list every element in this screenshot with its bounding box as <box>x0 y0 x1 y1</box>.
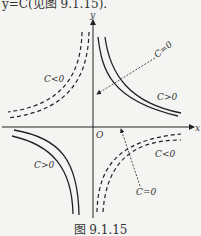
label-q1-c-pos: C>0 <box>157 92 177 102</box>
curve-q4-dashed-inner <box>97 134 181 212</box>
label-q1-c-zero: C=0 <box>152 39 174 60</box>
label-q4-c-zero: C=0 <box>136 187 156 197</box>
label-q2-c-neg: C<0 <box>44 74 64 84</box>
label-q3-c-pos: C>0 <box>34 160 54 170</box>
pointer-q1-c-zero <box>97 58 155 94</box>
pointer-q4-c-zero <box>121 129 140 186</box>
origin-label: O <box>96 130 104 140</box>
y-axis-label: y <box>89 10 96 20</box>
x-axis-label: x <box>195 123 200 133</box>
curve-q3-solid-outer <box>12 136 73 214</box>
hyperbola-diagram: y x O C=0 C>0 C<0 C>0 C<0 C=0 <box>0 0 201 236</box>
figure-caption: 图 9.1.15 <box>0 220 201 236</box>
label-q4-c-neg: C<0 <box>155 149 175 159</box>
curve-q3-solid-inner <box>14 130 79 215</box>
curve-q2-dashed-outer <box>8 32 82 112</box>
